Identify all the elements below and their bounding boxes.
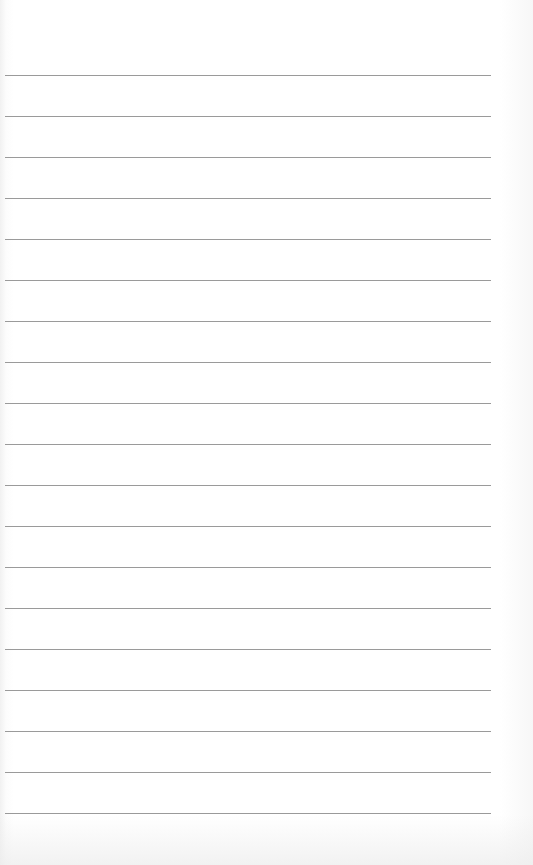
ruled-line <box>5 157 491 158</box>
ruled-line <box>5 567 491 568</box>
ruled-line <box>5 526 491 527</box>
ruled-line <box>5 485 491 486</box>
ruled-line <box>5 690 491 691</box>
ruled-line <box>5 116 491 117</box>
ruled-line <box>5 239 491 240</box>
ruled-line <box>5 731 491 732</box>
lined-paper-sheet <box>0 0 533 865</box>
ruled-line <box>5 198 491 199</box>
ruled-line <box>5 608 491 609</box>
ruled-line <box>5 444 491 445</box>
ruled-line <box>5 772 491 773</box>
ruled-line <box>5 362 491 363</box>
ruled-line <box>5 403 491 404</box>
ruled-line <box>5 75 491 76</box>
ruled-line <box>5 321 491 322</box>
ruled-line <box>5 280 491 281</box>
ruled-line <box>5 649 491 650</box>
ruled-line <box>5 813 491 814</box>
